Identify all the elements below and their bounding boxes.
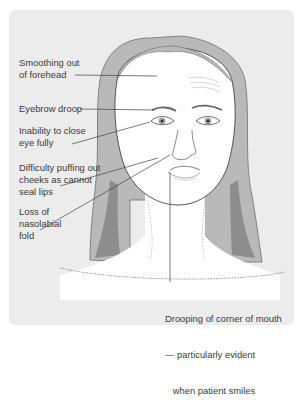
label-cheeks: Difficulty puffing out cheeks as cannot …: [19, 162, 100, 198]
label-line: — particularly evident: [165, 349, 282, 361]
label-line: Drooping of corner of mouth: [165, 313, 282, 325]
label-line: Loss of: [19, 206, 61, 218]
label-line: Inability to close: [19, 125, 86, 137]
label-forehead: Smoothing out of forehead: [19, 57, 79, 81]
label-mouth: Drooping of corner of mouth — particular…: [165, 289, 282, 400]
label-line: eye fully: [19, 137, 86, 149]
pupil-left: [161, 120, 163, 122]
label-eyebrow: Eyebrow droop: [19, 103, 82, 115]
label-line: fold: [19, 230, 61, 242]
label-line: nasolabial: [19, 218, 61, 230]
pupil-right: [207, 120, 209, 122]
label-line: Difficulty puffing out: [19, 162, 100, 174]
label-line: cheeks as cannot: [19, 174, 100, 186]
label-line: Eyebrow droop: [19, 103, 82, 115]
label-line: when patient smiles: [165, 385, 282, 397]
label-nasolabial: Loss of nasolabial fold: [19, 206, 61, 242]
label-line: of forehead: [19, 69, 79, 81]
label-line: seal lips: [19, 186, 100, 198]
label-eye: Inability to close eye fully: [19, 125, 86, 149]
label-line: Smoothing out: [19, 57, 79, 69]
